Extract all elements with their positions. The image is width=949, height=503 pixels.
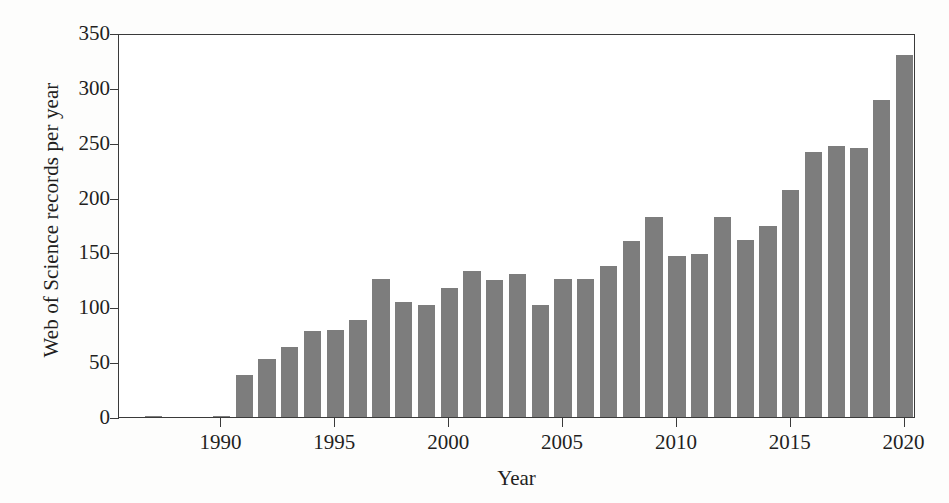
bar	[281, 347, 298, 417]
x-tick-mark	[334, 418, 335, 427]
x-tick-mark	[904, 418, 905, 427]
bar	[418, 305, 435, 417]
bar	[213, 416, 230, 418]
bar	[304, 331, 321, 417]
bar	[645, 217, 662, 417]
bar	[737, 240, 754, 417]
bar	[532, 305, 549, 417]
bar	[463, 271, 480, 417]
y-tick-label: 300	[50, 78, 110, 99]
bar	[759, 226, 776, 417]
x-tick-label: 1990	[175, 432, 265, 453]
x-tick-label: 2005	[517, 432, 607, 453]
bar	[782, 190, 799, 417]
bar	[668, 256, 685, 417]
x-tick-mark	[562, 418, 563, 427]
x-tick-label: 2015	[745, 432, 835, 453]
bar	[805, 152, 822, 418]
x-tick-mark	[220, 418, 221, 427]
y-tick-label: 150	[50, 242, 110, 263]
bar	[349, 320, 366, 417]
x-tick-mark	[676, 418, 677, 427]
chart-figure: Web of Science records per year 05010015…	[0, 0, 949, 503]
bar	[600, 266, 617, 417]
bar	[486, 280, 503, 417]
y-tick-label: 0	[50, 407, 110, 428]
bar	[509, 274, 526, 417]
bar	[145, 416, 162, 418]
y-tick-label: 50	[50, 352, 110, 373]
bar-series	[119, 35, 914, 417]
y-tick-label: 200	[50, 188, 110, 209]
plot-area	[118, 34, 915, 418]
bar	[441, 288, 458, 417]
x-tick-label: 2020	[859, 432, 949, 453]
bar	[236, 375, 253, 417]
bar	[714, 217, 731, 417]
x-tick-label: 2000	[403, 432, 493, 453]
y-tick-label: 250	[50, 133, 110, 154]
bar	[372, 279, 389, 417]
x-axis-title: Year	[118, 466, 915, 491]
x-tick-mark	[448, 418, 449, 427]
bar	[258, 359, 275, 417]
bar	[828, 146, 845, 417]
bar	[896, 55, 913, 417]
x-tick-label: 1995	[289, 432, 379, 453]
bar	[873, 100, 890, 417]
bar	[327, 330, 344, 417]
x-tick-label: 2010	[631, 432, 721, 453]
x-tick-mark	[790, 418, 791, 427]
bar	[395, 302, 412, 417]
y-tick-label: 100	[50, 297, 110, 318]
bar	[577, 279, 594, 417]
y-tick-label: 350	[50, 23, 110, 44]
bar	[623, 241, 640, 417]
y-tick-mark	[110, 418, 119, 419]
bar	[691, 254, 708, 417]
bar	[850, 148, 867, 417]
bar	[554, 279, 571, 417]
